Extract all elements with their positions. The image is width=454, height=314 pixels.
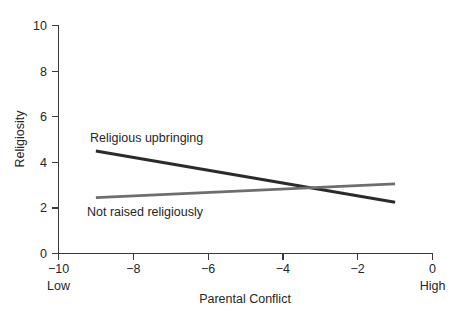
y-tick-label-8: 8 (40, 65, 47, 79)
line-chart-canvas: 10 8 6 4 2 0 Religiosity −10 − (0, 0, 454, 314)
y-tick-label-10: 10 (33, 19, 47, 33)
x-axis-anchor-low: Low (47, 279, 71, 293)
x-axis-anchor-high: High (420, 279, 446, 293)
y-tick-label-6: 6 (40, 110, 47, 124)
y-tick-label-2: 2 (40, 201, 47, 215)
x-tick-label-0: 0 (429, 262, 436, 276)
x-tick-label-neg4: −4 (276, 262, 290, 276)
series-label-religious-upbringing: Religious upbringing (90, 131, 203, 145)
y-tick-label-0: 0 (40, 247, 47, 261)
chart-figure: 10 8 6 4 2 0 Religiosity −10 − (0, 0, 454, 314)
series-label-not-raised-religiously: Not raised religiously (87, 205, 204, 219)
y-axis-title: Religiosity (13, 110, 27, 168)
y-tick-label-4: 4 (40, 156, 47, 170)
x-tick-label-neg2: −2 (351, 262, 365, 276)
x-tick-label-neg8: −8 (126, 262, 140, 276)
x-tick-label-neg6: −6 (201, 262, 215, 276)
x-tick-label-neg10: −10 (48, 262, 69, 276)
x-axis-title: Parental Conflict (199, 292, 291, 306)
